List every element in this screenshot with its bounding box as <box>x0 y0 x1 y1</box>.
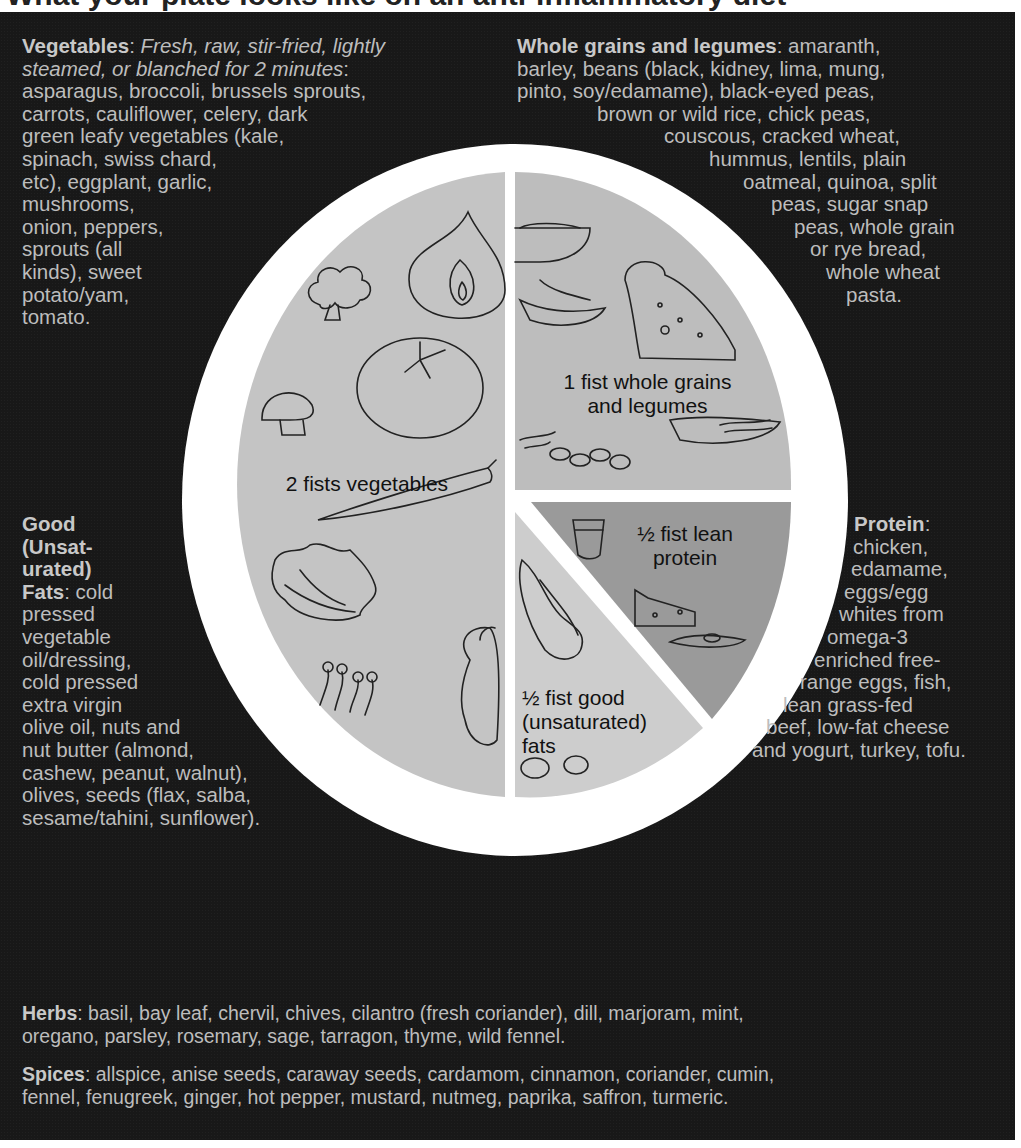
vegetables-line: potato/yam, <box>22 284 385 307</box>
fats-line: olives, seeds (flax, salba, <box>22 784 260 807</box>
grains-description: Whole grains and legumes: amaranth, barl… <box>517 35 955 306</box>
vegetables-line: carrots, cauliflower, celery, dark <box>22 103 385 126</box>
fats-line: Good <box>22 513 260 536</box>
vegetables-line: asparagus, broccoli, brussels sprouts, <box>22 80 385 103</box>
spices-line: Spices: allspice, anise seeds, caraway s… <box>22 1063 774 1086</box>
herbs-description: Herbs: basil, bay leaf, chervil, chives,… <box>22 1002 744 1048</box>
protein-line: eggs/egg <box>752 581 966 604</box>
vegetables-line: etc), eggplant, garlic, <box>22 171 385 194</box>
grains-line: pinto, soy/edamame), black-eyed peas, <box>517 80 955 103</box>
fats-line: vegetable <box>22 626 260 649</box>
grains-line: peas, sugar snap <box>517 193 955 216</box>
grains-line: or rye bread, <box>517 238 955 261</box>
protein-line: Protein: <box>752 513 966 536</box>
vegetables-portion-label: 2 fists vegetables <box>262 472 472 496</box>
vegetables-line: mushrooms, <box>22 193 385 216</box>
grains-line: hummus, lentils, plain <box>517 148 955 171</box>
grains-line: peas, whole grain <box>517 216 955 239</box>
vegetables-line: steamed, or blanched for 2 minutes: <box>22 58 385 81</box>
protein-line: edamame, <box>752 558 966 581</box>
fats-description: Good (Unsat- urated) Fats: cold pressed … <box>22 513 260 829</box>
fats-portion-label: ½ fist good (unsaturated) fats <box>522 686 672 758</box>
vegetables-description: Vegetables: Fresh, raw, stir-fried, ligh… <box>22 35 385 329</box>
vegetables-line: green leafy vegetables (kale, <box>22 125 385 148</box>
protein-line: enriched free- <box>752 649 966 672</box>
herbs-line: Herbs: basil, bay leaf, chervil, chives,… <box>22 1002 744 1025</box>
protein-line: whites from <box>752 603 966 626</box>
vegetables-line: onion, peppers, <box>22 216 385 239</box>
vegetables-line: sprouts (all <box>22 238 385 261</box>
fats-line: pressed <box>22 603 260 626</box>
grains-portion-label: 1 fist whole grains and legumes <box>520 370 775 418</box>
protein-line: and yogurt, turkey, tofu. <box>752 739 966 762</box>
fats-line: sesame/tahini, sunflower). <box>22 807 260 830</box>
protein-description: Protein: chicken, edamame, eggs/egg whit… <box>752 513 966 762</box>
fats-line: (Unsat- <box>22 536 260 559</box>
fats-line: cashew, peanut, walnut), <box>22 762 260 785</box>
fats-line: urated) <box>22 558 260 581</box>
spices-description: Spices: allspice, anise seeds, caraway s… <box>22 1063 774 1109</box>
fats-line: cold pressed <box>22 671 260 694</box>
grains-line: brown or wild rice, chick peas, <box>517 103 955 126</box>
spices-line: fennel, fenugreek, ginger, hot pepper, m… <box>22 1086 774 1109</box>
protein-line: omega-3 <box>752 626 966 649</box>
fats-line: Fats: cold <box>22 581 260 604</box>
protein-portion-label: ½ fist lean protein <box>615 522 755 570</box>
vegetables-line: kinds), sweet <box>22 261 385 284</box>
vegetables-line: tomato. <box>22 306 385 329</box>
fats-line: oil/dressing, <box>22 649 260 672</box>
fats-line: extra virgin <box>22 694 260 717</box>
grains-line: Whole grains and legumes: amaranth, <box>517 35 955 58</box>
grains-line: whole wheat <box>517 261 955 284</box>
protein-line: chicken, <box>752 536 966 559</box>
fats-line: olive oil, nuts and <box>22 716 260 739</box>
vegetables-line: Vegetables: Fresh, raw, stir-fried, ligh… <box>22 35 385 58</box>
grains-line: oatmeal, quinoa, split <box>517 171 955 194</box>
grains-line: barley, beans (black, kidney, lima, mung… <box>517 58 955 81</box>
fats-line: nut butter (almond, <box>22 739 260 762</box>
herbs-line: oregano, parsley, rosemary, sage, tarrag… <box>22 1025 744 1048</box>
protein-line: beef, low-fat cheese <box>752 716 966 739</box>
vegetables-line: spinach, swiss chard, <box>22 148 385 171</box>
grains-line: couscous, cracked wheat, <box>517 125 955 148</box>
protein-line: range eggs, fish, <box>752 671 966 694</box>
grains-line: pasta. <box>517 284 955 307</box>
protein-line: lean grass-fed <box>752 694 966 717</box>
